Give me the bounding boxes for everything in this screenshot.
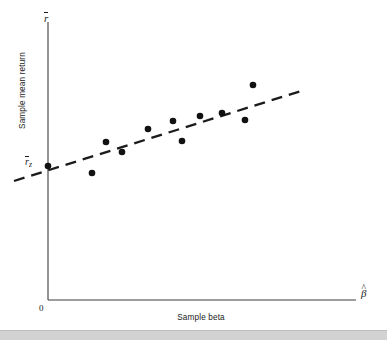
y-axis-symbol: r bbox=[44, 12, 48, 24]
data-point bbox=[103, 139, 110, 146]
scatter-plot-canvas bbox=[0, 0, 387, 340]
data-point-intercept bbox=[45, 163, 52, 170]
y-intercept-label: r z bbox=[25, 156, 32, 169]
chart-figure: r β ^ r z 0 Sample mean return Sample be… bbox=[0, 0, 387, 340]
y-axis-title: Sample mean return bbox=[18, 35, 27, 147]
x-axis-symbol: β ^ bbox=[361, 287, 366, 299]
data-point bbox=[89, 170, 96, 177]
bottom-divider-strip bbox=[0, 330, 387, 340]
data-point bbox=[197, 113, 204, 120]
data-point bbox=[119, 149, 126, 156]
fitted-regression-line bbox=[14, 91, 301, 181]
data-point bbox=[179, 138, 186, 145]
data-point-group bbox=[45, 82, 257, 177]
data-point bbox=[250, 82, 257, 89]
data-point bbox=[170, 118, 177, 125]
data-point bbox=[219, 110, 226, 117]
y-axis-symbol-base: r bbox=[44, 12, 48, 24]
overbar-mark bbox=[25, 156, 29, 157]
data-point bbox=[145, 126, 152, 133]
intercept-label-subscript: z bbox=[29, 160, 32, 169]
x-axis-title: Sample beta bbox=[48, 313, 354, 322]
intercept-label-base: r bbox=[25, 156, 29, 167]
origin-label: 0 bbox=[39, 303, 44, 313]
data-point bbox=[242, 117, 249, 124]
overbar-mark bbox=[44, 12, 48, 13]
hat-mark: ^ bbox=[362, 284, 366, 293]
